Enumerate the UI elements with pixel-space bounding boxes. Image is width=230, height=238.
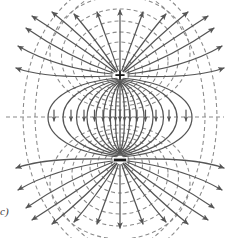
dipole-field-diagram bbox=[0, 0, 230, 238]
panel-label: c) bbox=[0, 206, 9, 217]
dipole-figure: c) bbox=[0, 0, 230, 238]
